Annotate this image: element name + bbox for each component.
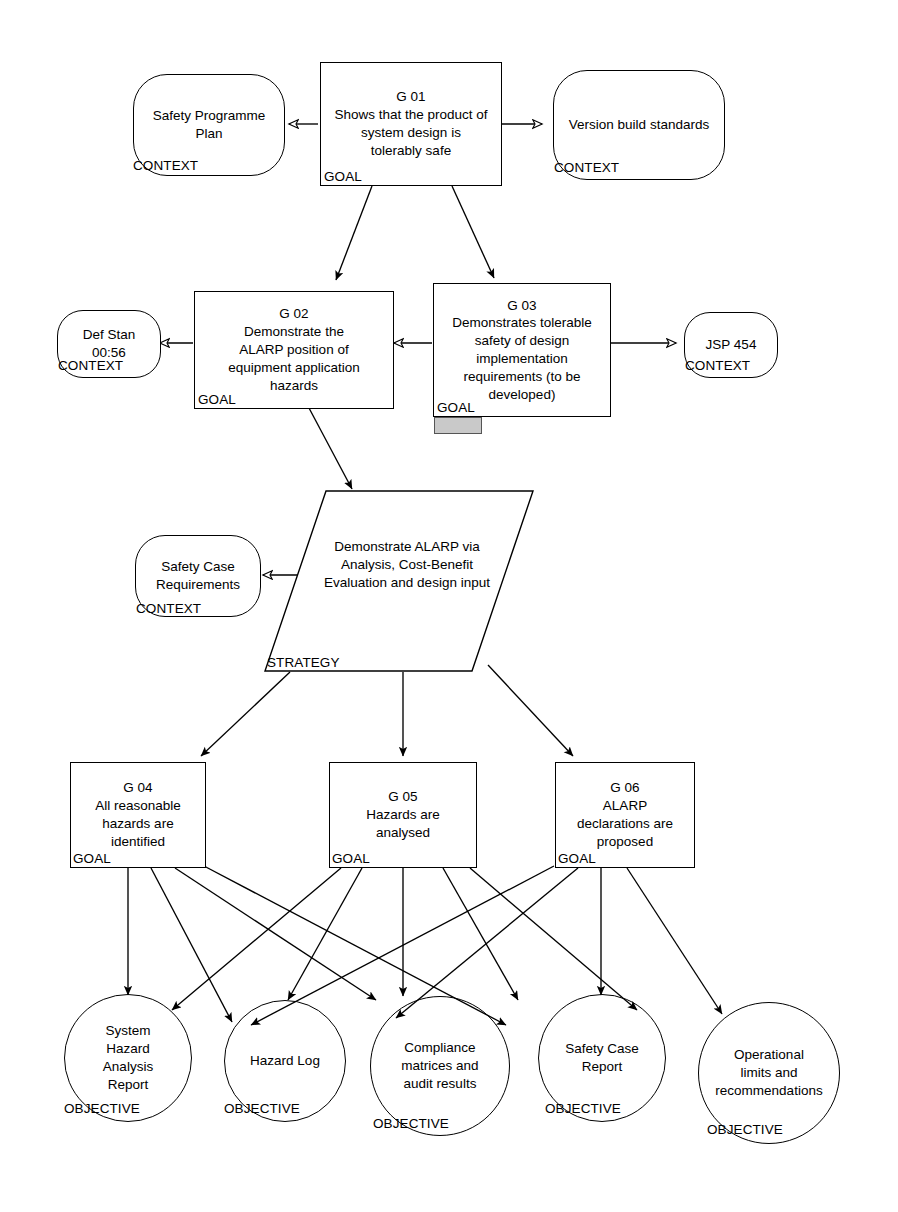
edge-g05-to-obj-system-hazard-analysis-report	[172, 868, 341, 1010]
type-label-goal-g04: GOAL	[73, 851, 111, 866]
edge-g04-to-obj-hazard-log	[151, 868, 232, 1022]
edge-g05-to-obj-operational-limits	[470, 868, 637, 1010]
objective-safety-case-report-label: Safety Case Report	[559, 1040, 645, 1076]
type-label-context: CONTEXT	[133, 158, 198, 173]
type-label-objective-safety-case-report: OBJECTIVE	[545, 1101, 621, 1116]
goal-g05-label: G 05 Hazards are analysed	[360, 788, 446, 841]
goal-g03[interactable]: G 03 Demonstrates tolerable safety of de…	[433, 283, 611, 417]
type-label-goal-g03: GOAL	[437, 400, 475, 415]
goal-g06-label: G 06 ALARP declarations are proposed	[571, 779, 679, 850]
type-label-context-version-build-standards: CONTEXT	[554, 160, 619, 175]
type-label-objective-system-hazard-analysis-report: OBJECTIVE	[64, 1101, 140, 1116]
objective-compliance-matrices-label: Compliance matrices and audit results	[395, 1039, 484, 1093]
context-def-stan-label: Def Stan 00:56	[77, 326, 142, 362]
context-safety-programme-plan-label: Safety Programme Plan	[147, 107, 272, 143]
type-label-objective-hazard-log: OBJECTIVE	[224, 1101, 300, 1116]
type-label-context-safety-case-requirements: CONTEXT	[136, 601, 201, 616]
edge-g05-to-obj-hazard-log	[288, 868, 362, 1000]
edge-g06-to-obj-operational-limits	[627, 868, 722, 1014]
strategy-node[interactable]: Demonstrate ALARP via Analysis, Cost-Ben…	[264, 490, 534, 672]
type-label-goal-g01: GOAL	[324, 169, 362, 184]
edge-strategy-to-g04	[201, 672, 290, 756]
type-label-context-def-stan: CONTEXT	[58, 358, 123, 373]
type-label-objective-operational-limits: OBJECTIVE	[707, 1122, 783, 1137]
type-label-objective-compliance-matrices: OBJECTIVE	[373, 1116, 449, 1131]
goal-g03-highlight-block[interactable]	[434, 417, 482, 434]
type-label-strategy: STRATEGY	[267, 655, 340, 670]
goal-g02-label: G 02 Demonstrate the ALARP position of e…	[222, 305, 365, 394]
context-version-build-standards-label: Version build standards	[563, 116, 715, 134]
type-label-goal-g02: GOAL	[198, 392, 236, 407]
edge-g06-to-obj-compliance-matrices	[396, 868, 578, 1018]
edge-g01-to-g02	[336, 186, 372, 280]
objective-system-hazard-analysis-report-label: System Hazard Analysis Report	[97, 1022, 159, 1094]
context-safety-case-requirements-label: Safety Case Requirements	[150, 558, 246, 594]
objective-operational-limits-label: Operational limits and recommendations	[714, 1046, 823, 1100]
type-label-goal-g05: GOAL	[332, 851, 370, 866]
edge-g05-to-obj-safety-case-report	[443, 868, 518, 1000]
edge-g02-to-strategy	[309, 408, 352, 489]
objective-compliance-matrices[interactable]: Compliance matrices and audit results	[370, 996, 510, 1136]
edge-g04-to-obj-compliance-matrices	[175, 868, 376, 1000]
type-label-context-jsp-454: CONTEXT	[685, 358, 750, 373]
gsn-diagram-canvas: Safety Programme Plan CONTEXT G 01 Shows…	[0, 0, 898, 1212]
edge-g01-to-g03	[452, 186, 494, 278]
goal-g04-label: G 04 All reasonable hazards are identifi…	[89, 779, 187, 850]
goal-g01-label: G 01 Shows that the product of system de…	[328, 88, 493, 159]
type-label-goal-g06: GOAL	[558, 851, 596, 866]
goal-g03-label: G 03 Demonstrates tolerable safety of de…	[446, 297, 598, 404]
context-jsp-454-label: JSP 454	[700, 336, 763, 354]
strategy-label: Demonstrate ALARP via Analysis, Cost-Ben…	[308, 538, 506, 592]
goal-g01[interactable]: G 01 Shows that the product of system de…	[320, 62, 502, 186]
edge-strategy-to-g06	[488, 665, 573, 756]
objective-hazard-log-label: Hazard Log	[244, 1052, 326, 1070]
